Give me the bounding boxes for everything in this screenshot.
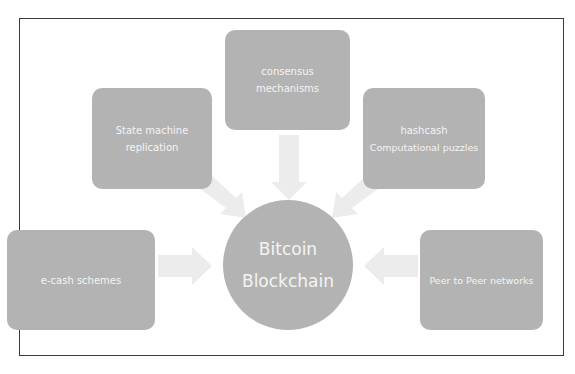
node-ecash-schemes: e-cash schemes: [7, 230, 155, 330]
node-label: mechanisms: [256, 80, 319, 97]
node-peer-to-peer-networks: Peer to Peer networks: [420, 230, 543, 330]
node-hashcash: hashcash Computational puzzles: [363, 88, 485, 189]
node-label: Peer to Peer networks: [429, 272, 533, 289]
node-consensus-mechanisms: consensus mechanisms: [225, 30, 350, 130]
arrow-down-icon: [271, 135, 307, 200]
node-label: replication: [126, 139, 179, 156]
center-label: Blockchain: [242, 265, 334, 297]
center-bitcoin-blockchain: Bitcoin Blockchain: [223, 200, 353, 330]
node-label: Computational puzzles: [370, 139, 478, 156]
node-label: consensus: [261, 63, 313, 80]
node-label: hashcash: [400, 122, 447, 139]
node-label: State machine: [116, 122, 189, 139]
arrow-right-icon: [158, 247, 212, 285]
node-state-machine-replication: State machine replication: [92, 88, 212, 189]
arrow-left-icon: [364, 247, 418, 285]
center-label: Bitcoin: [259, 233, 317, 265]
node-label: e-cash schemes: [41, 272, 121, 289]
